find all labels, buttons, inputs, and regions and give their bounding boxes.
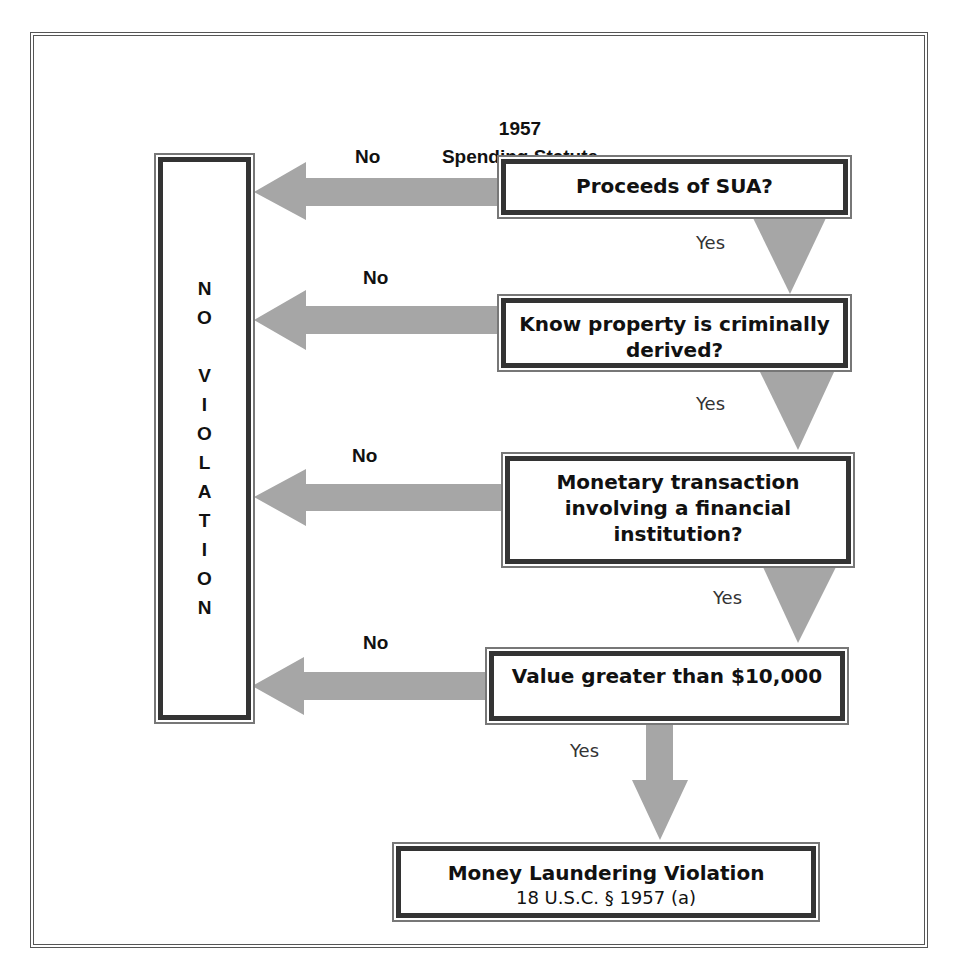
decision-question: Value greater than $10,000	[512, 663, 822, 689]
yes-arrow-4	[632, 724, 688, 840]
decision-question-line: Monetary transaction	[556, 469, 799, 495]
no-violation-letter: I	[202, 535, 207, 564]
yes-label-3: Yes	[713, 587, 742, 608]
decision-question-line: Know property is criminally	[519, 311, 830, 337]
yes-arrow-3	[763, 567, 836, 643]
decision-question: Proceeds of SUA?	[576, 173, 773, 199]
result-citation: 18 U.S.C. § 1957 (a)	[516, 886, 696, 910]
no-label-1: No	[355, 146, 380, 168]
no-arrow-1	[254, 162, 498, 220]
no-violation-letter: N	[198, 593, 212, 622]
no-violation-letter: T	[199, 506, 211, 535]
no-violation-letter: N	[198, 274, 212, 303]
yes-arrow-1	[753, 218, 826, 294]
no-violation-letter: I	[202, 390, 207, 419]
no-violation-letter: A	[198, 477, 212, 506]
no-arrow-4	[252, 657, 486, 715]
no-label-2: No	[363, 267, 388, 289]
decision-question-line: derived?	[626, 337, 723, 363]
no-violation-letter: O	[197, 303, 212, 332]
yes-label-4: Yes	[570, 740, 599, 761]
decision-question-line: institution?	[613, 521, 742, 547]
decision-question-line: involving a financial	[565, 495, 791, 521]
no-label-4: No	[363, 632, 388, 654]
no-arrow-3	[254, 469, 502, 526]
yes-arrow-2	[760, 372, 834, 450]
decision-box-know-criminally-derived: Know property is criminally derived?	[497, 294, 852, 372]
result-title: Money Laundering Violation	[448, 860, 765, 886]
result-box-money-laundering-violation: Money Laundering Violation 18 U.S.C. § 1…	[392, 842, 820, 922]
decision-box-monetary-transaction: Monetary transaction involving a financi…	[501, 452, 855, 568]
decision-box-proceeds-sua: Proceeds of SUA?	[497, 155, 852, 219]
yes-label-1: Yes	[696, 232, 725, 253]
no-violation-letter: L	[199, 448, 211, 477]
no-label-3: No	[352, 445, 377, 467]
decision-box-value-over-10000: Value greater than $10,000	[485, 647, 849, 725]
no-violation-letter: O	[197, 564, 212, 593]
no-arrow-2	[254, 290, 498, 350]
no-violation-letter: O	[197, 419, 212, 448]
yes-label-2: Yes	[696, 393, 725, 414]
no-violation-box: N O V I O L A T I O N	[154, 153, 255, 724]
no-violation-letter: V	[198, 361, 211, 390]
